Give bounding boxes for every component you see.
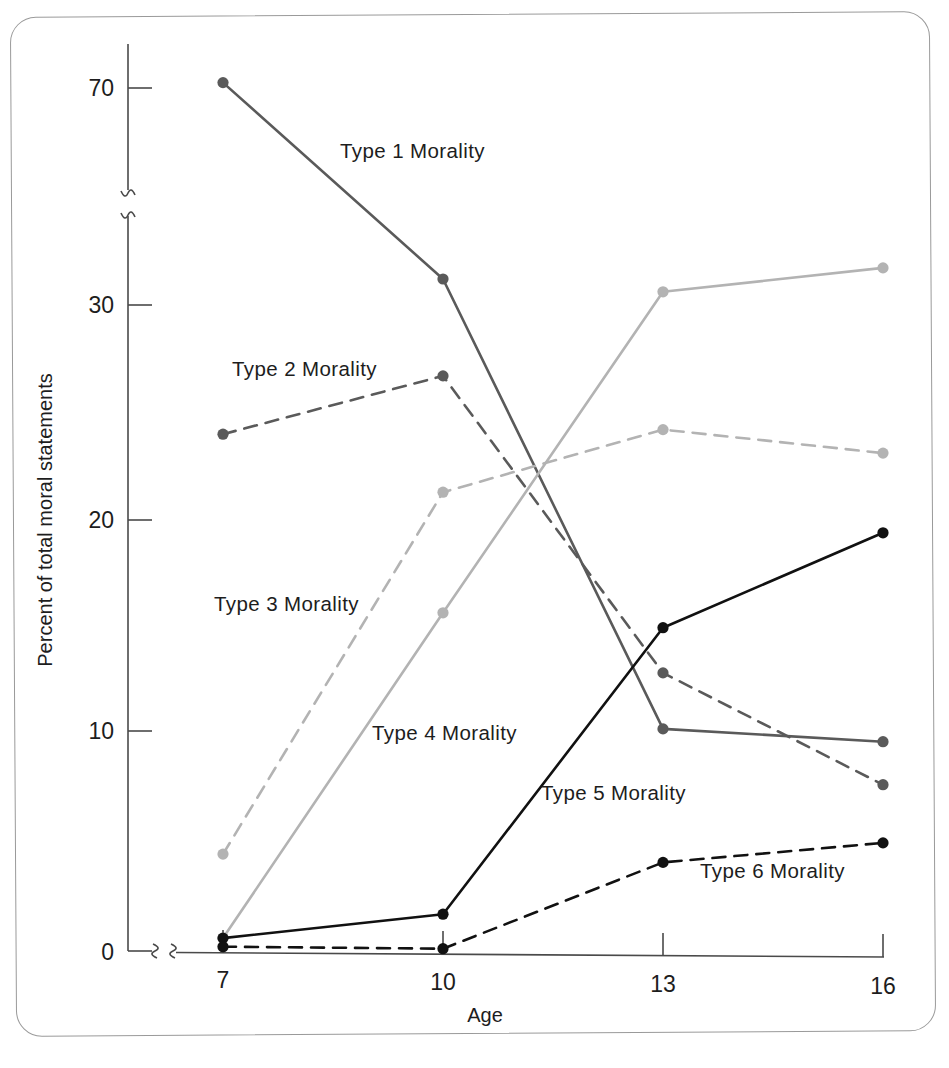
data-point-s4-x13 (657, 286, 668, 297)
series-label-2: Type 2 Morality (232, 357, 377, 380)
x-tick-label-13: 13 (650, 971, 676, 997)
data-point-s6-x10 (437, 943, 448, 954)
x-tick-label-7: 7 (217, 967, 230, 993)
y-axis-title: Percent of total moral statements (34, 373, 56, 666)
x-tick-label-10: 10 (430, 969, 456, 995)
series-labels: Type 1 MoralityType 2 MoralityType 3 Mor… (214, 139, 845, 882)
series-2 (217, 370, 888, 790)
x-axis-title: Age (467, 1004, 503, 1026)
x-axis (176, 953, 884, 958)
data-point-s5-x10 (437, 909, 448, 920)
y-tick-label-20: 20 (88, 507, 114, 533)
data-point-s3-x7 (217, 849, 228, 860)
series-label-3: Type 3 Morality (214, 592, 359, 615)
data-point-s2-x16 (877, 779, 888, 790)
series-label-1: Type 1 Morality (340, 139, 485, 162)
data-point-s6-x7 (217, 941, 228, 952)
x-axis-break-icon (152, 944, 158, 958)
x-axis-break-icon-right (170, 944, 176, 958)
y-tick-labels: 70 30 20 10 0 (88, 75, 114, 965)
x-tick-labels: 7 10 13 16 (217, 967, 896, 999)
data-point-s3-x16 (877, 448, 888, 459)
axes (121, 44, 884, 958)
data-point-s5-x16 (877, 527, 888, 538)
y-tick-label-70: 70 (88, 75, 114, 101)
data-point-s3-x13 (657, 424, 668, 435)
y-axis-break-icon (121, 190, 135, 196)
y-tick-label-10: 10 (88, 718, 114, 744)
data-point-s1-x7 (217, 77, 228, 88)
data-point-s1-x13 (657, 723, 668, 734)
series-line-1 (223, 83, 883, 742)
data-point-s2-x7 (217, 429, 228, 440)
figure-page: 70 30 20 10 0 7 10 13 16 Age Percent of … (0, 0, 949, 1068)
y-tick-label-30: 30 (88, 292, 114, 318)
series-label-5: Type 5 Morality (541, 781, 686, 804)
series-line-2 (223, 376, 883, 785)
data-point-s4-x10 (437, 607, 448, 618)
series-1 (217, 77, 888, 747)
data-point-s1-x16 (877, 736, 888, 747)
chart-svg: 70 30 20 10 0 7 10 13 16 Age Percent of … (0, 0, 949, 1068)
data-point-s3-x10 (437, 487, 448, 498)
data-point-s5-x13 (657, 622, 668, 633)
data-point-s2-x10 (437, 370, 448, 381)
y-tick-label-0: 0 (101, 939, 114, 965)
x-tick-label-16: 16 (870, 973, 896, 999)
line-chart-figure: 70 30 20 10 0 7 10 13 16 Age Percent of … (0, 0, 949, 1068)
series-6 (217, 837, 888, 954)
data-point-s1-x10 (437, 273, 448, 284)
data-point-s6-x13 (657, 857, 668, 868)
series-label-6: Type 6 Morality (700, 859, 845, 882)
data-point-s2-x13 (657, 667, 668, 678)
data-point-s4-x16 (877, 262, 888, 273)
data-point-s6-x16 (877, 837, 888, 848)
series-layer (217, 77, 888, 954)
series-label-4: Type 4 Morality (372, 721, 517, 744)
